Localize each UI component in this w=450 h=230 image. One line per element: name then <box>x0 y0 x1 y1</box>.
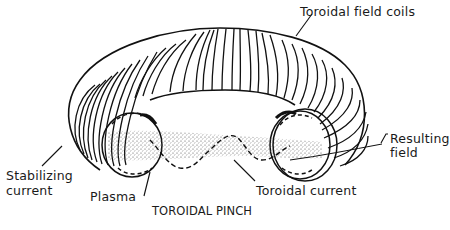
label-resulting-field-line1: Resulting <box>390 132 450 146</box>
diagram-caption: TOROIDAL PINCH <box>152 204 252 218</box>
label-toroidal-current: Toroidal current <box>256 184 356 198</box>
label-toroidal-field-coils: Toroidal field coils <box>300 5 415 19</box>
label-plasma: Plasma <box>90 190 136 204</box>
label-stabilizing-current-line2: current <box>6 184 53 198</box>
label-resulting-field-line2: field <box>390 146 418 160</box>
coil-rings-top <box>170 29 278 96</box>
label-stabilizing-current-line1: Stabilizing <box>6 169 73 183</box>
